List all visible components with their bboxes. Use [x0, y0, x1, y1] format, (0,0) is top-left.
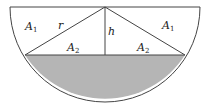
semicircle-segment-diagram: A1 r h A1 A2 A2 — [0, 0, 208, 106]
label-a2-left: A2 — [66, 41, 79, 55]
label-r: r — [58, 19, 64, 32]
label-a2-right: A2 — [136, 41, 149, 55]
shaded-segment — [25, 55, 185, 99]
label-a1-left: A1 — [24, 20, 37, 34]
label-h: h — [108, 25, 115, 38]
label-a1-right: A1 — [161, 19, 174, 33]
